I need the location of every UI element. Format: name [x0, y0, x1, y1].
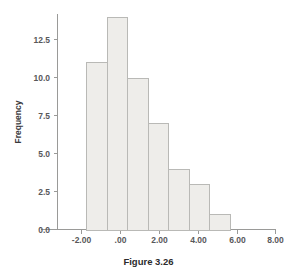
histogram-bar	[190, 185, 210, 231]
figure-container: 0.0 2.5 5.0 7.5 10.0 12.5 Frequency -2.0…	[0, 0, 297, 280]
y-axis-tick-labels: 0.0 2.5 5.0 7.5 10.0 12.5	[33, 35, 50, 235]
y-tick-label: 5.0	[38, 149, 50, 159]
x-tick-label: 6.00	[229, 235, 246, 245]
x-tick-label: .00	[115, 235, 127, 245]
y-tick-label: 7.5	[38, 111, 50, 121]
y-tick-label: 0.0	[38, 225, 50, 235]
histogram-bars	[87, 18, 231, 231]
y-axis-title: Frequency	[13, 100, 23, 143]
histogram-plot: 0.0 2.5 5.0 7.5 10.0 12.5 Frequency -2.0…	[0, 0, 297, 280]
y-tick-label: 12.5	[33, 35, 50, 45]
figure-caption-wrap: Figure 3.26	[0, 252, 297, 276]
histogram-bar	[128, 79, 149, 231]
histogram-bar	[210, 215, 231, 231]
histogram-bar	[169, 170, 190, 231]
x-tick-label: 4.00	[190, 235, 207, 245]
x-tick-label: 8.00	[267, 235, 284, 245]
figure-caption: Figure 3.26	[123, 256, 173, 267]
x-axis-tick-labels: -2.00 .00 2.00 4.00 6.00 8.00	[72, 235, 284, 245]
y-tick-label: 10.0	[33, 73, 50, 83]
histogram-bar	[149, 124, 169, 231]
histogram-bar	[87, 63, 108, 231]
x-tick-label: -2.00	[72, 235, 92, 245]
y-axis-ticks	[54, 40, 58, 230]
y-tick-label: 2.5	[38, 187, 50, 197]
x-tick-label: 2.00	[151, 235, 168, 245]
histogram-bar	[108, 18, 128, 231]
